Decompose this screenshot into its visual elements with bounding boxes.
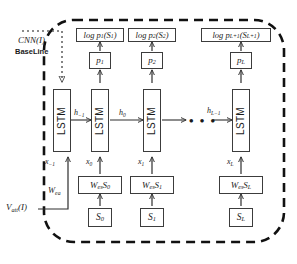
x-label-0: x0 — [86, 158, 92, 166]
cnn-input-label: CNN(I) — [18, 36, 45, 45]
diagram-canvas: CNN(I) BaseLine Vatt(I) Wea log p1(S1) l… — [0, 0, 297, 264]
word-box-0: S0 — [88, 208, 112, 227]
lstm-cell-1: LSTM — [143, 89, 161, 152]
lstm-cell-L: LSTM — [232, 89, 250, 152]
x-label-minus1: x−1 — [45, 158, 55, 166]
log-prob-box-1: log p1(S1) — [76, 28, 124, 42]
lstm-cell-init: LSTM — [53, 89, 71, 152]
p-box-1: p1 — [89, 52, 111, 69]
p-box-2: p2 — [141, 52, 163, 69]
word-embedding-box-L: WesSL — [219, 176, 263, 194]
wea-subscript: ea — [55, 190, 60, 196]
log-prob-box-L-plus-1: log pL+1(SL+1) — [201, 28, 271, 42]
word-box-1: S1 — [140, 208, 164, 227]
word-embedding-box-0: WesS0 — [78, 176, 122, 194]
word-embedding-box-1: WesS1 — [130, 176, 174, 194]
sequence-ellipsis: • • • — [189, 113, 217, 129]
p-box-L: pL — [230, 52, 252, 69]
vatt-subscript: att — [12, 207, 18, 213]
x-label-L: xL — [227, 158, 234, 166]
hidden-state-label-0: h0 — [119, 109, 126, 117]
cnn-baseline-label: BaseLine — [15, 48, 48, 56]
log-prob-box-2: log p2(S2) — [128, 28, 176, 42]
x-label-1: x1 — [138, 158, 144, 166]
hidden-state-label-minus1: h−1 — [74, 109, 84, 117]
lstm-cell-0: LSTM — [91, 89, 109, 152]
vatt-input-label: Vatt(I) — [6, 203, 27, 212]
wea-weight-label: Wea — [48, 186, 61, 195]
word-box-L: SL — [229, 208, 253, 227]
